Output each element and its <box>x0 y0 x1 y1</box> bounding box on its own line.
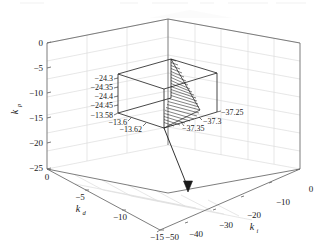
hatched-wedge <box>164 59 200 128</box>
y-tick-5: −50 <box>165 232 180 242</box>
z-axis-title-base: k <box>9 109 20 114</box>
zoom-arrow <box>164 128 193 192</box>
x-tick-3: −15 <box>150 232 165 242</box>
y-tick-4: −40 <box>189 229 204 239</box>
x-tick-2: −10 <box>113 212 128 222</box>
y-tick-0: 0 <box>309 184 314 194</box>
x-axis-title-sub: d <box>83 209 87 216</box>
figure-3d-plot: 0 −5 −10 −15 −20 −25 k p 0 −5 −10 −15 k … <box>0 0 325 242</box>
z-axis-title-sub: p <box>15 103 22 108</box>
y-tick-1: −10 <box>276 197 291 207</box>
x-axis-title-base: k <box>76 203 81 214</box>
y-axis-title-sub: i <box>257 227 259 234</box>
z-axis-title: k p <box>9 103 22 114</box>
inset-z-label-0: −24.3 <box>94 74 113 83</box>
x-tick-0: 0 <box>45 172 50 182</box>
inset-z-label-3: −24.45 <box>90 101 113 110</box>
inset-y-label-1: −37.3 <box>203 117 222 126</box>
z-tick-1: −5 <box>33 63 43 73</box>
y-axis-title: k i <box>250 221 259 234</box>
inset-y-labels: −37.25 −37.3 −37.35 <box>182 108 244 133</box>
z-tick-5: −25 <box>29 163 44 173</box>
y-tick-2: −20 <box>247 210 262 220</box>
z-axis-tick-labels: 0 −5 −10 −15 −20 −25 <box>29 38 44 173</box>
x-axis-title: k d <box>76 203 87 216</box>
z-tick-2: −10 <box>29 88 44 98</box>
inset-z-label-1: −24.35 <box>90 83 113 92</box>
y-axis-title-base: k <box>250 221 255 232</box>
inset-x-label-2: −13.62 <box>119 125 142 134</box>
inset-z-labels: −24.3 −24.35 −24.4 −24.45 <box>90 74 113 110</box>
inset-y-label-0: −37.25 <box>221 108 244 117</box>
axis-spines <box>47 19 300 230</box>
y-tick-3: −30 <box>219 220 234 230</box>
z-tick-3: −15 <box>29 113 44 123</box>
z-tick-4: −20 <box>29 138 44 148</box>
plot-canvas: 0 −5 −10 −15 −20 −25 k p 0 −5 −10 −15 k … <box>0 0 325 242</box>
inset-y-label-2: −37.35 <box>182 124 205 133</box>
x-axis-tick-labels: 0 −5 −10 −15 <box>45 172 165 242</box>
top-scan-artifacts <box>20 2 306 18</box>
y-axis-tick-labels: 0 −10 −20 −30 −40 −50 <box>165 184 314 242</box>
x-tick-1: −5 <box>75 192 85 202</box>
inset-z-label-2: −24.4 <box>94 92 113 101</box>
z-tick-0: 0 <box>39 38 44 48</box>
